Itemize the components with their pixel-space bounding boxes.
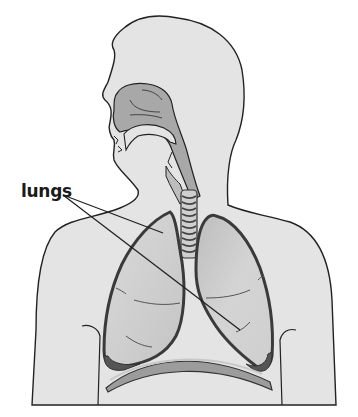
label-lungs: lungs xyxy=(21,181,72,201)
trachea xyxy=(181,190,197,258)
respiratory-diagram xyxy=(0,0,358,417)
